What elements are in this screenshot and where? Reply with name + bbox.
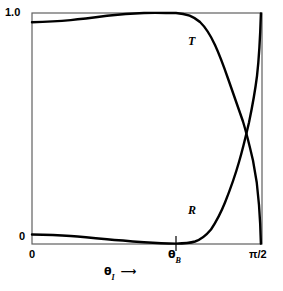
plot-frame [32,13,262,244]
y-axis-tick-0: 0 [19,231,25,242]
subscript-b: B [176,256,181,265]
x-axis-tick-pi-over-2: π/2 [249,249,267,260]
right-arrow-icon: ⟶ [121,265,137,278]
chart-figure: 1.0 0 0 θB π/2 θI⟶ T R [0,0,283,291]
x-axis-tick-0: 0 [29,249,35,260]
plot-canvas [0,0,283,291]
curve-label-transmittance: T [188,35,195,47]
y-axis-tick-1.0: 1.0 [5,7,20,18]
x-axis-tick-brewster: θB [168,249,181,263]
theta-glyph-incidence: θ [104,265,112,278]
x-axis-title: θI⟶ [104,266,136,280]
subscript-i: I [112,273,115,282]
curve-label-reflectance: R [188,204,196,216]
theta-glyph-brewster: θ [168,248,176,261]
